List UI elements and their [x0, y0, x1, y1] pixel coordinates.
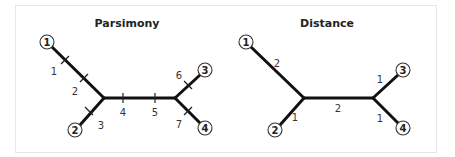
distance-panel: Distance 2 1 2 1 1 1 2 3 4	[239, 17, 410, 137]
change-label-2: 2	[72, 86, 78, 97]
change-label-5: 5	[152, 107, 158, 118]
change-label-4: 4	[120, 107, 126, 118]
taxon-node-1: 1	[239, 35, 253, 49]
branch-length-2: 1	[292, 112, 298, 123]
taxon-node-4: 4	[198, 121, 212, 135]
taxon-node-2: 2	[268, 123, 282, 137]
parsimony-panel: Parsimony 1 2 3 4 5 6 7 1 2	[40, 17, 212, 137]
change-label-6: 6	[176, 70, 182, 81]
branch-length-3: 1	[377, 74, 383, 85]
taxon-node-3: 3	[396, 63, 410, 77]
taxon-node-3: 3	[198, 63, 212, 77]
tree-diagrams: Parsimony 1 2 3 4 5 6 7 1 2	[0, 0, 455, 157]
branch-length-4: 1	[377, 113, 383, 124]
taxon-node-3-label: 3	[400, 65, 407, 76]
distance-title: Distance	[300, 17, 354, 30]
taxon-node-4: 4	[396, 121, 410, 135]
taxon-node-2-label: 2	[272, 125, 279, 136]
taxon-node-2-label: 2	[72, 125, 79, 136]
taxon-node-1-label: 1	[243, 37, 250, 48]
change-label-3: 3	[98, 120, 104, 131]
taxon-node-4-label: 4	[202, 123, 209, 134]
parsimony-title: Parsimony	[95, 17, 160, 30]
branch-1	[251, 47, 304, 98]
taxon-node-2: 2	[68, 123, 82, 137]
taxon-node-4-label: 4	[400, 123, 407, 134]
change-label-7: 7	[176, 119, 182, 130]
change-label-1: 1	[51, 66, 57, 77]
branch-length-internal: 2	[335, 103, 341, 114]
taxon-node-1: 1	[40, 35, 54, 49]
taxon-node-3-label: 3	[202, 65, 209, 76]
branch-length-1: 2	[274, 58, 280, 69]
taxon-node-1-label: 1	[44, 37, 51, 48]
